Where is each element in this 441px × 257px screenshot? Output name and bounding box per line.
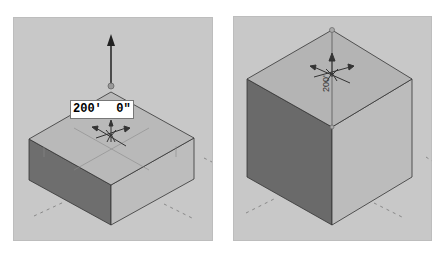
viewport-left[interactable]: 200' 0" [13, 17, 213, 241]
push-pull-arrow-icon [107, 34, 115, 89]
box-drawing-left [14, 18, 214, 242]
cube-drawing-right: 200' [234, 17, 433, 242]
dimension-input[interactable]: 200' 0" [70, 100, 134, 119]
viewport-right[interactable]: 200' [233, 16, 432, 241]
